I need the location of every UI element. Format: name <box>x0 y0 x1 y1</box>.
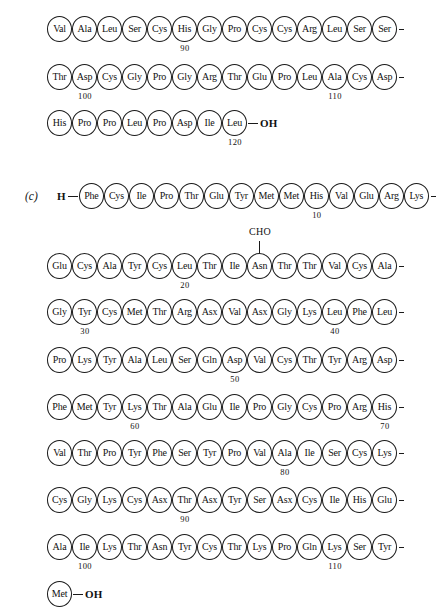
residue-number: 10 <box>312 210 321 220</box>
residue-leu: Leu20 <box>172 253 198 280</box>
continuation-dash <box>399 407 404 408</box>
residue-ser: Ser <box>347 534 373 561</box>
residue-label: His <box>372 394 397 420</box>
residue-label: Pro <box>97 440 122 466</box>
residue-ala: Ala <box>372 253 398 280</box>
n-terminus: H <box>57 190 78 202</box>
residue-label: His <box>304 183 329 209</box>
residue-label: Thr <box>47 64 72 90</box>
residue-his: His10 <box>304 183 330 210</box>
residue-leu: Leu <box>297 64 323 91</box>
residue-label: Pro <box>222 440 247 466</box>
residue-cys: Cys <box>47 487 73 514</box>
residue-label: Lys <box>404 183 429 209</box>
residue-label: Asp <box>222 347 247 373</box>
residue-lys: Lys110 <box>322 534 348 561</box>
residue-label: Lys <box>122 394 147 420</box>
residue-label: Asp <box>72 64 97 90</box>
residue-thr: Thr <box>147 299 173 326</box>
residue-label: Gly <box>272 394 297 420</box>
residue-ala: Ala <box>122 347 148 374</box>
residue-thr: Thr <box>197 253 223 280</box>
residue-label: Tyr <box>72 299 97 325</box>
residue-gly: Gly <box>47 299 73 326</box>
residue-lys: Lys <box>97 487 123 514</box>
residue-label: Ile <box>72 534 97 560</box>
sequence-row: PheMetTyrLys60ThrAlaGluIleProGlyCysProAr… <box>47 392 404 422</box>
residue-label: Leu <box>372 299 397 325</box>
residue-gly: Gly <box>172 64 198 91</box>
residue-label: Glu <box>354 183 379 209</box>
residue-label: Tyr <box>229 183 254 209</box>
residue-label: Asn <box>247 253 272 279</box>
residue-label: Val <box>47 16 72 42</box>
residue-pro: Pro <box>147 64 173 91</box>
residue-label: Cys <box>247 16 272 42</box>
residue-label: Tyr <box>122 440 147 466</box>
residue-label: Val <box>329 183 354 209</box>
residue-val: Val <box>222 299 248 326</box>
residue-number: 110 <box>328 91 342 101</box>
residue-label: Pro <box>154 183 179 209</box>
residue-ala: Ala <box>47 534 73 561</box>
residue-label: Phe <box>47 394 72 420</box>
residue-label: Gly <box>197 16 222 42</box>
residue-val: Val <box>247 440 273 467</box>
residue-label: Ser <box>122 16 147 42</box>
residue-label: Cys <box>147 16 172 42</box>
residue-label: Lys <box>372 440 397 466</box>
residue-label: Ile <box>297 440 322 466</box>
residue-label: Ala <box>172 394 197 420</box>
residue-label: Cys <box>97 299 122 325</box>
residue-number: 70 <box>380 421 389 431</box>
residue-label: Ala <box>97 253 122 279</box>
sequence-row: AlaIle100LysThrAsnTyrCysThrLysProGlnLys1… <box>47 532 404 562</box>
residue-label: Leu <box>147 347 172 373</box>
residue-label: Met <box>279 183 304 209</box>
residue-arg: Arg <box>197 64 223 91</box>
residue-gly: Gly <box>272 394 298 421</box>
residue-pro: Pro <box>147 110 173 137</box>
residue-label: Cys <box>297 487 322 513</box>
residue-phe: Phe <box>79 183 105 210</box>
residue-cys: Cys <box>147 16 173 43</box>
residue-label: Cys <box>347 64 372 90</box>
residue-label: Gly <box>72 487 97 513</box>
residue-label: Ala <box>322 64 347 90</box>
residue-label: Ala <box>47 534 72 560</box>
residue-label: Arg <box>347 394 372 420</box>
residue-label: Asx <box>272 487 297 513</box>
residue-thr: Thr <box>297 347 323 374</box>
residue-cys: Cys <box>97 64 123 91</box>
residue-label: Ile <box>322 487 347 513</box>
residue-label: Glu <box>372 487 397 513</box>
residue-tyr: Tyr <box>172 534 198 561</box>
residue-asx: Asx <box>197 299 223 326</box>
residue-met: Met <box>279 183 305 210</box>
residue-ile: Ile <box>322 487 348 514</box>
residue-his: His <box>47 110 73 137</box>
residue-cys: Cys <box>347 64 373 91</box>
residue-label: Ile <box>222 394 247 420</box>
residue-label: Arg <box>347 347 372 373</box>
residue-label: Cys <box>272 347 297 373</box>
residue-label: Gly <box>172 64 197 90</box>
residue-label: Arg <box>379 183 404 209</box>
residue-cys: Cys <box>347 253 373 280</box>
residue-phe: Phe <box>347 299 373 326</box>
residue-tyr: Tyr <box>229 183 255 210</box>
residue-label: Pro <box>322 394 347 420</box>
residue-label: Ile <box>222 253 247 279</box>
residue-gly: Gly <box>72 487 98 514</box>
residue-label: Leu <box>322 16 347 42</box>
sequence-row: MetOH <box>47 579 103 609</box>
residue-ser: Ser <box>172 440 198 467</box>
residue-label: Thr <box>222 64 247 90</box>
residue-ile: Ile <box>297 440 323 467</box>
residue-label: Thr <box>147 299 172 325</box>
residue-label: Glu <box>204 183 229 209</box>
residue-label: Tyr <box>97 394 122 420</box>
residue-leu: Leu40 <box>322 299 348 326</box>
residue-label: Cys <box>72 253 97 279</box>
bond-line <box>248 123 258 124</box>
